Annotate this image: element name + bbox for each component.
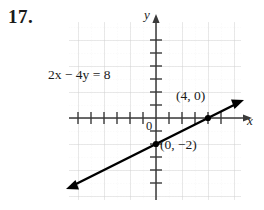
graph-figure: 17. <box>0 0 264 210</box>
point-marker-y-intercept <box>153 141 159 147</box>
coordinate-plane <box>0 0 264 210</box>
axis-label-x: x <box>247 113 253 129</box>
equation-label: 2x − 4y = 8 <box>48 67 110 83</box>
axis-label-y: y <box>144 7 150 23</box>
origin-label: 0 <box>146 119 152 134</box>
point-marker-x-intercept <box>205 115 211 121</box>
point-label-x-intercept: (4, 0) <box>176 88 205 104</box>
point-label-y-intercept: (0, −2) <box>160 137 197 153</box>
